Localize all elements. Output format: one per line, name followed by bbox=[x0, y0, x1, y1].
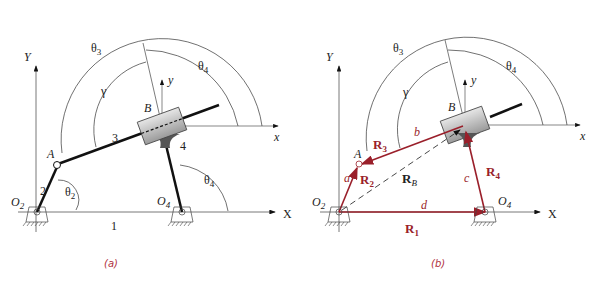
y-axis-label-b: Y bbox=[326, 50, 334, 64]
pin-a bbox=[54, 162, 61, 169]
ground-o2-b bbox=[325, 207, 350, 226]
length-a-label: a bbox=[344, 171, 350, 185]
gamma-label-b: γ bbox=[402, 85, 409, 99]
y-axis-label: Y bbox=[24, 50, 32, 64]
local-x-label: x bbox=[273, 130, 280, 144]
length-b-label: b bbox=[414, 125, 420, 139]
theta3-label-b: θ3 bbox=[393, 41, 404, 57]
theta4-bottom-arc bbox=[180, 165, 228, 211]
point-b-label-b: B bbox=[448, 100, 456, 114]
caption-b: (b) bbox=[431, 258, 445, 269]
theta2-label: θ2 bbox=[65, 185, 75, 201]
point-a-label-b: A bbox=[353, 147, 362, 161]
local-y-label: y bbox=[167, 73, 174, 87]
link-3 bbox=[58, 105, 219, 164]
panel-b: Y X y x O2 bbox=[312, 37, 586, 269]
link-3-label: 3 bbox=[112, 131, 118, 145]
panel-a: Y X y x bbox=[11, 39, 292, 269]
pin-a-b bbox=[356, 161, 362, 167]
caption-a: (a) bbox=[104, 258, 118, 269]
point-a-label: A bbox=[46, 147, 55, 161]
point-o2-label-b: O2 bbox=[312, 195, 326, 211]
length-d-label: d bbox=[421, 198, 428, 212]
ground-o2 bbox=[23, 207, 48, 226]
vector-r2-label: R2 bbox=[360, 172, 374, 189]
point-b-label: B bbox=[144, 101, 152, 115]
vector-r1-label: R1 bbox=[405, 221, 419, 238]
vector-r4-label: R4 bbox=[486, 164, 500, 181]
x-axis-label: X bbox=[283, 207, 292, 221]
vector-r3-label: R3 bbox=[373, 137, 387, 154]
local-y-label-b: y bbox=[470, 73, 477, 87]
link3-extension-b bbox=[490, 104, 522, 117]
local-x-label-b: x bbox=[579, 129, 586, 143]
vector-rb-label: RB bbox=[402, 171, 417, 188]
point-o2-label: O2 bbox=[11, 195, 25, 211]
theta3-label: θ3 bbox=[91, 41, 102, 57]
link-1-label: 1 bbox=[111, 219, 117, 233]
link-2-label: 2 bbox=[40, 184, 46, 198]
link-4-label: 4 bbox=[180, 139, 186, 153]
gamma-label: γ bbox=[100, 84, 107, 98]
point-o4-label-b: O4 bbox=[498, 194, 512, 210]
theta4-label-b: θ4 bbox=[506, 59, 517, 75]
fourbar-diagram: Y X y x bbox=[0, 0, 605, 286]
x-axis-label-b: X bbox=[548, 207, 557, 221]
vector-rb bbox=[342, 130, 460, 210]
theta4-bottom-label: θ4 bbox=[204, 173, 215, 189]
ground-o4-b bbox=[471, 207, 496, 226]
theta4-top-label: θ4 bbox=[198, 59, 209, 75]
point-o4-label: O4 bbox=[157, 194, 171, 210]
length-c-label: c bbox=[464, 171, 470, 185]
